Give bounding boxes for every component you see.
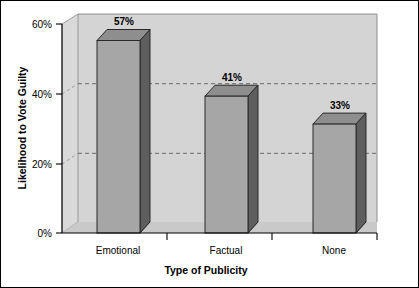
chart-canvas: 60% 40% 20% 0% Emotional Factual None 57… bbox=[0, 0, 419, 288]
y-axis-title: Likelihood to Vote Guilty bbox=[16, 66, 28, 189]
bar-factual-side bbox=[248, 85, 258, 233]
y-tick-label-60: 60% bbox=[32, 19, 52, 30]
x-axis-title: Type of Publicity bbox=[164, 264, 247, 276]
y-tick-label-0: 0% bbox=[38, 228, 53, 239]
x-category-label-none: None bbox=[322, 245, 346, 256]
bar-none[interactable] bbox=[313, 113, 366, 233]
data-label-factual: 41% bbox=[222, 72, 242, 83]
y-tick-label-20: 20% bbox=[32, 159, 52, 170]
x-category-label-emotional: Emotional bbox=[96, 245, 140, 256]
bar-emotional[interactable] bbox=[97, 30, 150, 234]
data-label-emotional: 57% bbox=[114, 16, 134, 27]
plot-left-wall bbox=[62, 14, 78, 233]
bar-factual[interactable] bbox=[205, 85, 258, 233]
bar-emotional-side bbox=[140, 30, 150, 234]
bar-factual-front bbox=[205, 96, 248, 233]
data-label-none: 33% bbox=[330, 100, 350, 111]
bar-none-front bbox=[313, 124, 356, 233]
bar-chart-figure: 60% 40% 20% 0% Emotional Factual None 57… bbox=[0, 0, 419, 288]
bar-none-side bbox=[356, 113, 366, 233]
x-category-label-factual: Factual bbox=[210, 245, 243, 256]
plot-floor-front bbox=[62, 233, 377, 240]
y-tick-label-40: 40% bbox=[32, 89, 52, 100]
bar-emotional-front bbox=[97, 41, 140, 234]
